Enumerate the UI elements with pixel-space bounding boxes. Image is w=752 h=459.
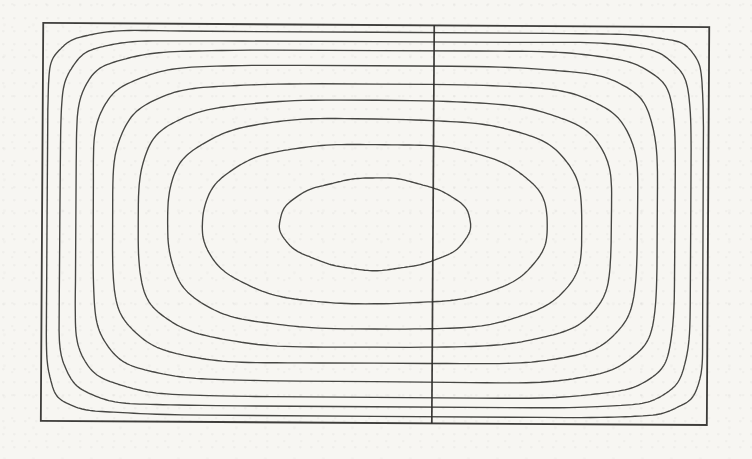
- contour-line-1: [46, 30, 705, 419]
- contour-line-9: [279, 177, 471, 271]
- contour-line-8: [202, 144, 548, 305]
- scanned-figure-page: [0, 0, 752, 459]
- contour-line-2: [59, 39, 692, 408]
- contour-line-4: [92, 64, 658, 384]
- contour-plot: [0, 0, 752, 459]
- plot-tilt-group: [41, 23, 709, 425]
- contour-line-5: [112, 82, 639, 365]
- contour-line-7: [167, 117, 582, 330]
- plot-frame: [41, 23, 709, 425]
- contour-lines: [46, 30, 705, 419]
- contour-line-6: [137, 99, 612, 349]
